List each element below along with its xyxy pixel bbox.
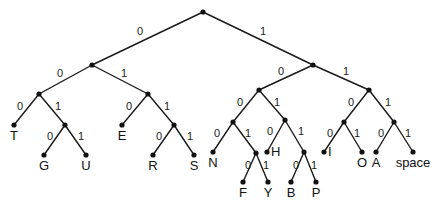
edge-bit-label: 0 (378, 127, 384, 139)
edge-bit-label: 0 (47, 130, 53, 142)
internal-node (171, 122, 176, 127)
edge-bit-label: 0 (57, 67, 63, 79)
leaf-character-label: O (357, 155, 367, 170)
leaf-character-label: F (239, 185, 247, 200)
internal-node (256, 87, 261, 92)
internal-node (36, 91, 41, 96)
edge-bit-label: 1 (263, 159, 269, 171)
internal-node (145, 91, 150, 96)
leaf-node (321, 149, 326, 154)
edge-bit-label: 1 (164, 100, 170, 112)
leaf-character-label: T (10, 128, 18, 143)
internal-node (230, 119, 235, 124)
edge-bit-label: 1 (385, 96, 391, 108)
leaf-character-label: U (81, 158, 90, 173)
edge-bit-label: 0 (278, 65, 284, 77)
internal-node (341, 119, 346, 124)
leaf-character-label: R (148, 158, 157, 173)
leaf-character-label: I (328, 144, 332, 159)
edge-bit-label: 0 (126, 100, 132, 112)
edge-bit-label: 1 (274, 96, 280, 108)
leaf-character-label: N (208, 155, 217, 170)
internal-node (282, 117, 287, 122)
leaf-character-label: B (287, 185, 296, 200)
tree-edge (259, 90, 285, 120)
edge-bit-label: 1 (311, 159, 317, 171)
leaf-character-label: E (118, 128, 127, 143)
edge-bit-label: 1 (121, 67, 127, 79)
internal-node (89, 62, 94, 67)
leaf-character-label: S (190, 158, 199, 173)
edge-bit-label: 1 (245, 127, 251, 139)
edge-bit-label: 0 (245, 159, 251, 171)
edge-bit-label: 0 (17, 100, 23, 112)
edge-bit-label: 0 (237, 96, 243, 108)
edge-bit-label: 0 (327, 127, 333, 139)
binary-tree-diagram: 010101010101010101010101010101 TGUERSNFY… (0, 0, 438, 209)
edge-bit-label: 1 (78, 130, 84, 142)
edge-labels-group: 010101010101010101010101010101 (17, 25, 411, 171)
edge-bit-label: 0 (348, 96, 354, 108)
leaf-character-label: Y (264, 185, 273, 200)
edge-bit-label: 1 (354, 127, 360, 139)
tree-edge (313, 65, 369, 90)
leaf-labels-group: TGUERSNFYHBPIOAspace (10, 128, 430, 200)
edge-bit-label: 0 (293, 159, 299, 171)
tree-edge (39, 65, 92, 94)
edge-bit-label: 0 (267, 125, 273, 137)
edge-bit-label: 0 (214, 127, 220, 139)
internal-node (301, 149, 306, 154)
internal-node (62, 122, 67, 127)
tree-edge (92, 12, 203, 65)
tree-edge (148, 94, 174, 125)
leaf-character-label: P (312, 185, 321, 200)
leaf-character-label: A (372, 155, 381, 170)
leaf-character-label: H (271, 144, 280, 159)
edge-bit-label: 1 (260, 25, 266, 37)
internal-node (310, 62, 315, 67)
edge-bit-label: 1 (298, 125, 304, 137)
internal-node (253, 150, 258, 155)
tree-edge (39, 94, 65, 125)
internal-node (391, 119, 396, 124)
tree-edge (203, 12, 313, 65)
edge-bit-label: 1 (55, 100, 61, 112)
tree-figure-canvas: 010101010101010101010101010101 TGUERSNFY… (0, 0, 438, 209)
tree-edge (259, 65, 313, 90)
edge-bit-label: 1 (187, 130, 193, 142)
internal-node (366, 87, 371, 92)
edge-bit-label: 0 (137, 25, 143, 37)
leaf-node (264, 149, 269, 154)
leaf-character-label: G (39, 158, 49, 173)
internal-node (200, 9, 205, 14)
edge-bit-label: 1 (343, 65, 349, 77)
edge-bit-label: 1 (405, 127, 411, 139)
edge-bit-label: 0 (156, 130, 162, 142)
leaf-character-label: space (396, 155, 431, 170)
